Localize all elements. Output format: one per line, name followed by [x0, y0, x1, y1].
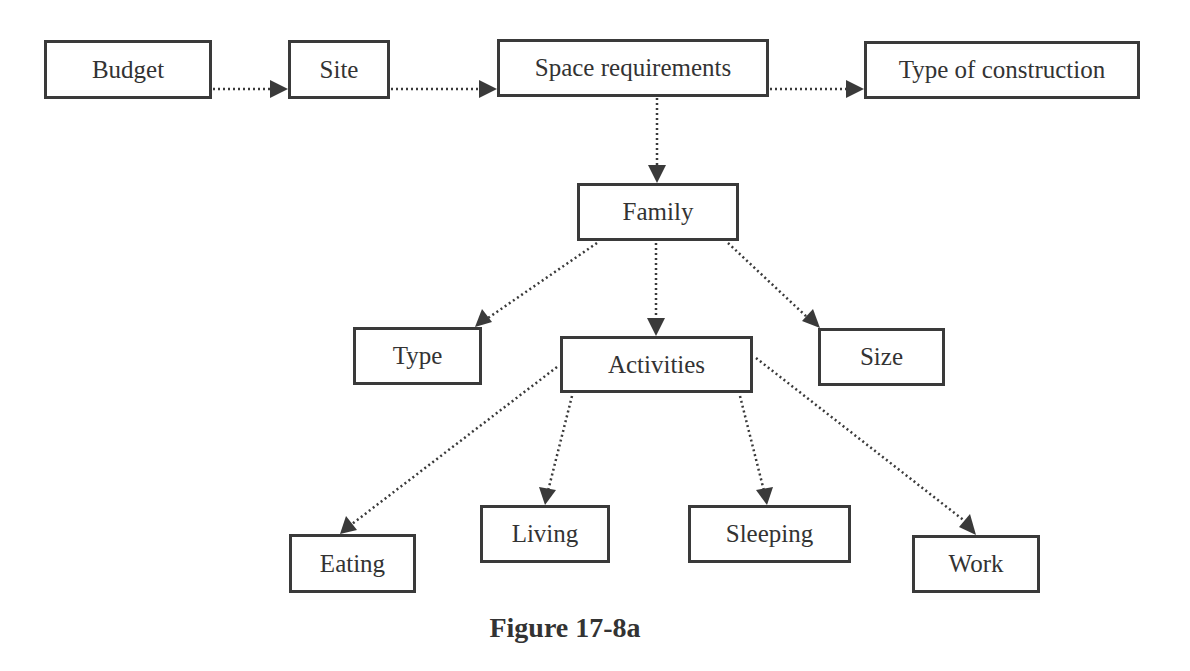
node-family: Family [577, 183, 739, 241]
edge-activities-sleeping [740, 396, 764, 491]
node-budget: Budget [44, 40, 212, 99]
node-size: Size [818, 328, 945, 386]
node-work: Work [912, 535, 1040, 593]
node-type-of-construction: Type of construction [864, 41, 1140, 99]
node-living-label: Living [512, 520, 579, 548]
arrowhead-eating-icon [340, 516, 357, 534]
arrowhead-type-of-construction-icon [846, 80, 864, 98]
node-family-label: Family [623, 198, 694, 226]
node-living: Living [480, 505, 610, 563]
edge-activities-eating [352, 367, 557, 524]
node-space-requirements-label: Space requirements [535, 54, 731, 82]
node-sleeping-label: Sleeping [726, 520, 814, 548]
node-site: Site [288, 40, 390, 99]
node-activities: Activities [560, 336, 753, 393]
node-work-label: Work [949, 550, 1004, 578]
figure-caption: Figure 17-8a [0, 612, 1130, 644]
arrowhead-size-icon [802, 309, 820, 328]
edge-family-size [728, 243, 808, 318]
node-space-requirements: Space requirements [497, 39, 769, 97]
edge-activities-living [548, 396, 572, 491]
node-type-label: Type [393, 342, 443, 370]
node-site-label: Site [320, 56, 359, 84]
node-eating-label: Eating [320, 550, 385, 578]
edge-family-type [488, 243, 597, 318]
node-activities-label: Activities [608, 351, 705, 379]
node-type-of-construction-label: Type of construction [899, 56, 1106, 84]
arrowhead-work-icon [959, 514, 976, 535]
node-eating: Eating [289, 534, 416, 593]
arrowhead-family-icon [648, 165, 666, 183]
node-budget-label: Budget [92, 56, 164, 84]
node-size-label: Size [860, 343, 903, 371]
node-sleeping: Sleeping [688, 505, 851, 563]
arrowhead-site-icon [270, 80, 288, 98]
arrowhead-space-requirements-icon [479, 80, 497, 98]
arrowhead-activities-icon [647, 318, 665, 336]
node-type: Type [353, 327, 482, 385]
arrowhead-sleeping-icon [756, 487, 773, 505]
arrowhead-living-icon [539, 487, 556, 505]
